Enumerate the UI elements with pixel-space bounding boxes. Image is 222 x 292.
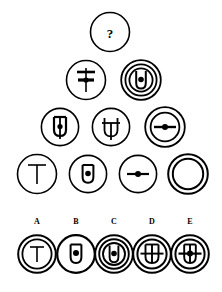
option-c-graphic [94,234,134,274]
option-e[interactable] [170,234,212,274]
tee-glyph [16,153,58,195]
u-stem-dot-glyph [40,107,80,147]
option-b[interactable] [56,234,96,274]
option-label-d: D [145,217,159,226]
matrix-cell-r1c1[interactable]: ? [89,11,131,53]
option-c[interactable] [94,234,134,274]
option-label-a: A [30,217,44,226]
double-ring-hline-dot-glyph [144,106,186,148]
option-label-b: B [69,217,83,226]
matrix-cell-r4c3[interactable] [118,154,158,194]
option-b-graphic [56,234,96,274]
question-cell-graphic: ? [89,11,131,53]
option-label-c: C [107,217,121,226]
puzzle-canvas: ? [0,0,222,292]
matrix-cell-r4c2[interactable] [68,154,108,194]
matrix-cell-r3c1[interactable] [40,107,80,147]
option-d[interactable] [132,234,172,274]
matrix-cell-r3c2[interactable] [91,107,131,147]
option-e-graphic [170,234,212,274]
double-ring-empty-glyph [167,153,209,195]
option-label-e: E [183,217,197,226]
option-d-graphic [132,234,172,274]
matrix-cell-r2c1[interactable] [65,59,107,101]
question-mark-glyph: ? [107,26,114,41]
matrix-cell-r4c1[interactable] [16,153,58,195]
option-a-graphic [17,234,57,274]
u-dot-triple-ring-glyph [120,59,162,101]
matrix-cell-r3c3[interactable] [144,106,186,148]
cross-bar-glyph [65,59,107,101]
hline-dot-glyph [118,154,158,194]
u-crossbar-glyph [91,107,131,147]
option-a[interactable] [17,234,57,274]
matrix-cell-r4c4[interactable] [167,153,209,195]
matrix-cell-r2c2[interactable] [120,59,162,101]
u-dot-glyph [68,154,108,194]
